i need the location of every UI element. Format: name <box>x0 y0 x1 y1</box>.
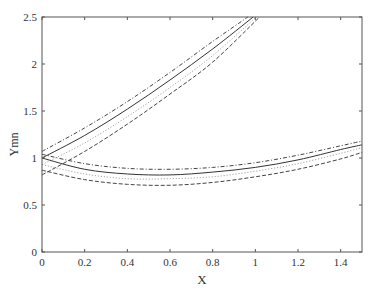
series-lower-solid <box>42 145 362 175</box>
x-tick-label: 0 <box>39 256 45 268</box>
y-axis-label: Ymn <box>7 133 21 157</box>
x-tick-label: 1.2 <box>291 256 305 268</box>
y-tick-label: 2 <box>32 58 38 70</box>
y-tick-label: 1 <box>32 152 38 164</box>
x-tick-label: 0.4 <box>120 256 134 268</box>
series-layer <box>42 17 362 185</box>
series-lower-dashdot <box>42 141 362 169</box>
series-lower-dotted <box>42 148 362 179</box>
series-upper-dashdot <box>42 17 248 151</box>
y-tick-label: 2.5 <box>23 11 37 23</box>
y-tick-label: 1.5 <box>23 105 37 117</box>
y-tick-label: 0.5 <box>23 199 37 211</box>
y-tick-label: 0 <box>32 246 38 258</box>
x-tick-label: 0.6 <box>163 256 177 268</box>
series-upper-dashed <box>42 17 260 175</box>
x-tick-label: 0.8 <box>206 256 220 268</box>
x-tick-label: 1.4 <box>334 256 348 268</box>
series-upper-dotted <box>42 17 256 165</box>
series-lower-dashed <box>42 152 362 185</box>
x-tick-label: 1 <box>253 256 259 268</box>
line-chart: 00.20.40.60.811.21.400.511.522.5 X Ymn <box>0 0 376 294</box>
x-tick-label: 0.2 <box>78 256 92 268</box>
x-axis-label: X <box>197 272 207 287</box>
axes-frame <box>42 17 362 252</box>
tick-layer: 00.20.40.60.811.21.400.511.522.5 <box>23 11 362 268</box>
